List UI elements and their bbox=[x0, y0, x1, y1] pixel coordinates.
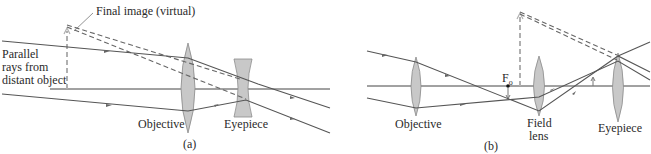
objective-label-a: Objective bbox=[138, 118, 185, 131]
panel-b bbox=[367, 12, 650, 122]
objective-label-b: Objective bbox=[395, 118, 442, 131]
caption-a: (a) bbox=[183, 138, 196, 151]
telescope-diagram bbox=[0, 0, 651, 154]
eyepiece-label-a: Eyepiece bbox=[224, 118, 268, 131]
final-image-label: Final image (virtual) bbox=[96, 5, 195, 18]
eyepiece-label-b: Eyepiece bbox=[598, 122, 642, 135]
field-lens-label-2: lens bbox=[529, 130, 548, 143]
eyepiece-lens-a bbox=[234, 59, 252, 117]
caption-b: (b) bbox=[484, 140, 498, 153]
field-lens-b bbox=[534, 56, 545, 116]
parallel-rays-label-3: distant object bbox=[2, 74, 66, 87]
focal-point-label: Fo bbox=[502, 72, 513, 89]
